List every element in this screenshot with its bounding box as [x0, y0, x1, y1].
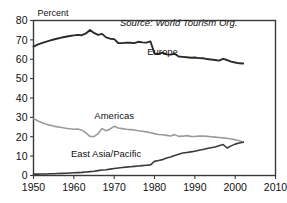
- y-axis-title: Percent: [38, 8, 70, 18]
- series-labels-group: EuropeAmericasEast Asia/Pacific: [71, 46, 178, 159]
- tourism-share-line-chart: 01020304050607080 1950196019701980199020…: [0, 0, 287, 203]
- y-tick-label: 0: [22, 169, 28, 181]
- series-label-americas: Americas: [94, 110, 134, 121]
- x-tick-label: 1950: [22, 181, 46, 193]
- x-tick-label: 2000: [223, 181, 247, 193]
- x-tick-label: 2010: [264, 181, 287, 193]
- y-tick-label: 80: [16, 14, 28, 26]
- x-axis-ticks: 1950196019701980199020002010: [22, 176, 287, 193]
- y-tick-label: 60: [16, 53, 28, 65]
- x-tick-label: 1980: [143, 181, 167, 193]
- source-annotation: Source: World Tourism Org.: [120, 17, 237, 28]
- series-line-americas: [34, 119, 244, 142]
- chart-canvas: 01020304050607080 1950196019701980199020…: [0, 0, 287, 203]
- y-tick-label: 30: [16, 111, 28, 123]
- series-label-europe: Europe: [147, 46, 178, 57]
- y-axis-ticks: 01020304050607080: [16, 14, 34, 181]
- y-tick-label: 40: [16, 92, 28, 104]
- x-tick-label: 1970: [102, 181, 126, 193]
- x-tick-label: 1960: [62, 181, 86, 193]
- plot-frame: [34, 21, 276, 176]
- series-line-europe: [34, 30, 244, 64]
- plot-area-border: [34, 21, 276, 176]
- series-label-east-asia-pacific: East Asia/Pacific: [71, 148, 141, 159]
- y-tick-label: 20: [16, 131, 28, 143]
- y-tick-label: 70: [16, 34, 28, 46]
- x-tick-label: 1990: [183, 181, 207, 193]
- y-tick-label: 10: [16, 150, 28, 162]
- y-tick-label: 50: [16, 72, 28, 84]
